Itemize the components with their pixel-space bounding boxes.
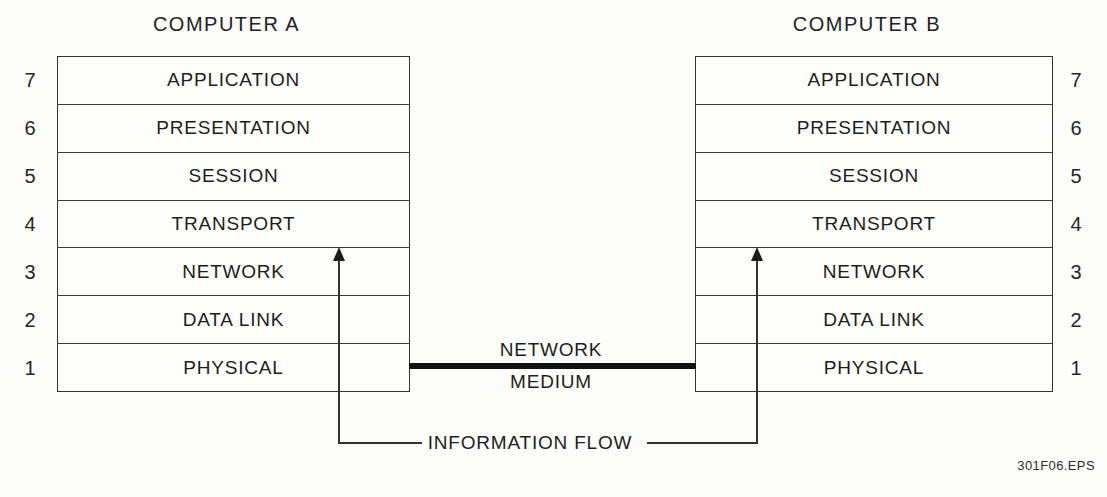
layer-row-network: NETWORK <box>58 248 409 296</box>
layer-number: 7 <box>12 56 48 104</box>
information-flow-arrow-right-shaft <box>756 260 758 444</box>
layer-number: 5 <box>12 152 48 200</box>
layer-label: PRESENTATION <box>797 117 952 139</box>
layer-number: 6 <box>12 104 48 152</box>
network-medium-line <box>409 363 696 369</box>
arrow-up-icon <box>751 247 763 261</box>
layer-row-data-link: DATA LINK <box>696 296 1052 344</box>
layer-row-application: APPLICATION <box>696 57 1052 105</box>
layer-number: 1 <box>12 344 48 392</box>
layer-numbers-left: 7 6 5 4 3 2 1 <box>12 56 48 392</box>
layer-label: DATA LINK <box>823 309 925 331</box>
layer-row-session: SESSION <box>58 153 409 201</box>
layer-label: PHYSICAL <box>824 357 924 379</box>
layer-label: TRANSPORT <box>171 213 295 235</box>
layer-label: APPLICATION <box>167 69 300 91</box>
computer-a-stack: APPLICATION PRESENTATION SESSION TRANSPO… <box>57 56 410 392</box>
layer-number: 7 <box>1058 56 1094 104</box>
layer-row-physical: PHYSICAL <box>696 344 1052 391</box>
layer-label: TRANSPORT <box>812 213 936 235</box>
layer-label: NETWORK <box>182 261 285 283</box>
information-flow-label: INFORMATION FLOW <box>415 432 645 454</box>
layer-label: SESSION <box>188 165 278 187</box>
layer-label: NETWORK <box>823 261 926 283</box>
layer-number: 4 <box>1058 200 1094 248</box>
layer-row-network: NETWORK <box>696 248 1052 296</box>
layer-number: 1 <box>1058 344 1094 392</box>
layer-row-presentation: PRESENTATION <box>58 105 409 153</box>
layer-numbers-right: 7 6 5 4 3 2 1 <box>1058 56 1094 392</box>
arrow-up-icon <box>333 247 345 261</box>
layer-row-session: SESSION <box>696 153 1052 201</box>
network-medium-label-line2: MEDIUM <box>451 371 651 393</box>
layer-label: PHYSICAL <box>183 357 283 379</box>
layer-number: 3 <box>12 248 48 296</box>
information-flow-connector-left <box>338 442 422 444</box>
layer-label: APPLICATION <box>807 69 940 91</box>
layer-row-physical: PHYSICAL <box>58 344 409 391</box>
osi-model-diagram: COMPUTER A COMPUTER B 7 6 5 4 3 2 1 APPL… <box>0 0 1107 497</box>
layer-number: 3 <box>1058 248 1094 296</box>
layer-number: 2 <box>1058 296 1094 344</box>
computer-b-stack: APPLICATION PRESENTATION SESSION TRANSPO… <box>695 56 1053 392</box>
layer-row-application: APPLICATION <box>58 57 409 105</box>
layer-number: 4 <box>12 200 48 248</box>
layer-row-data-link: DATA LINK <box>58 296 409 344</box>
layer-row-transport: TRANSPORT <box>58 201 409 249</box>
information-flow-connector-right <box>647 442 758 444</box>
layer-label: DATA LINK <box>183 309 285 331</box>
layer-label: SESSION <box>829 165 919 187</box>
information-flow-arrow-left-shaft <box>338 260 340 444</box>
layer-number: 5 <box>1058 152 1094 200</box>
layer-row-transport: TRANSPORT <box>696 201 1052 249</box>
figure-filename: 301F06.EPS <box>985 458 1095 473</box>
computer-a-title: COMPUTER A <box>50 13 403 37</box>
network-medium-label-line1: NETWORK <box>451 339 651 361</box>
layer-label: PRESENTATION <box>156 117 311 139</box>
layer-number: 6 <box>1058 104 1094 152</box>
computer-b-title: COMPUTER B <box>688 13 1046 37</box>
layer-row-presentation: PRESENTATION <box>696 105 1052 153</box>
layer-number: 2 <box>12 296 48 344</box>
